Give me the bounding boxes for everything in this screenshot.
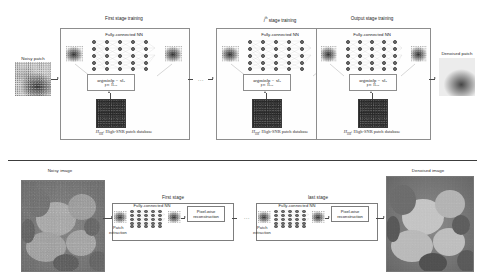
stage-3-nn-label: Fully-connected NN [353,32,391,37]
stage-3-database-patch [358,99,388,128]
bottom-stage-2-arrow-to-recon [325,218,329,219]
arrow-stage1-out [188,79,193,80]
stage-3-database-label: HHR: High-SNR patch database [344,129,401,136]
stage-2-formula-constraint: p ∈ HHR [261,83,273,87]
noisy-patch-image [15,62,51,96]
top-output-label: Denoised patch [441,51,472,56]
stage-3-title: Output stage training [351,16,394,21]
stage-2-database-patch [252,99,282,128]
stage-1-formula-objective: argmin‖p − x‖2 [97,78,125,83]
denoised-ct-image [386,176,474,272]
arrowhead-input-to-stage1 [57,77,59,79]
stage-3-db-arrowhead [370,91,372,93]
ct-noise-overlay [387,177,473,271]
stage-2-formula-objective: argmin‖p − x‖2 [253,78,281,83]
stage-1-formula-box: argmin‖p − x‖2 p ∈ HHR [87,74,135,91]
bottom-stage-1-extraction-label-2: extraction [109,231,127,236]
bottom-stage-2-recon-box: Pixel-wise reconstruction [331,206,369,222]
arrow-stage3-to-output [429,79,435,80]
arrow-image-to-stage1 [103,218,112,219]
bottom-output-label: Denoised image [412,168,444,173]
arrow-stage2-in [208,79,213,80]
stage-1-db-arrowhead [108,91,110,93]
stage-2-db-arrowhead [264,91,266,93]
bottom-stage-1-neural-network [129,209,167,227]
arrow-bottom-stage1-out [232,218,237,219]
noisy-ct-image [21,180,105,272]
bottom-input-label: Noisy image [48,168,73,173]
bottom-stage-1-recon-box: Pixel-wise reconstruction [187,206,225,222]
stage-2-title: ith stage training [264,16,297,23]
arrowhead-stage2-to-output-image [383,216,385,218]
stage-1-database-label: HHR: High-SNR patch database [96,129,153,136]
figure-root: Noisy patch First stage training Fully-c… [0,0,485,279]
denoised-patch-image [439,58,475,96]
bottom-stage-2-neural-network [273,209,311,227]
arrowhead-stage3-to-output [434,77,436,79]
bottom-stage-1-title: First stage [162,195,184,200]
bottom-stage-2-arrowhead-to-recon [328,216,330,218]
arrowhead-stage2-in [212,77,214,79]
bottom-stage-2-recon-label: Pixel-wise reconstruction [333,209,367,219]
bottom-stage-2-title: last stage [308,195,328,200]
stage-3-formula-constraint: p ∈ HHR [367,83,379,87]
bottom-stage-2-input-blob [258,211,271,223]
top-ellipsis-1: ... [198,76,204,82]
stage-1-title: First stage training [105,16,143,21]
ct-noise-overlay [22,181,104,271]
stage-1-formula-constraint: p ∈ HHR [105,83,117,87]
top-input-label: Noisy patch [21,56,45,61]
stage-3-formula-box: argmin‖p − x‖2 p ∈ HHR [349,74,397,91]
bottom-stage-1-output-blob [168,211,181,223]
stage-2-database-label: HHR: High-SNR patch database [252,129,309,136]
arrow-input-to-stage1 [51,79,58,80]
arrow-stage2-to-output-image [376,218,384,219]
bottom-stage-2-nn-label: Fully-connected NN [279,204,316,209]
stage-2-nn-label: Fully-connected NN [261,32,299,37]
bottom-stage-1-recon-label: Pixel-wise reconstruction [189,209,223,219]
bottom-stage-2-extraction-label-2: extraction [253,231,271,236]
panel-divider [8,160,477,161]
bottom-stage-1-arrowhead-to-recon [184,216,186,218]
stage-3-formula-objective: argmin‖p − x‖2 [359,78,387,83]
bottom-stage-1-arrow-to-recon [181,218,185,219]
stage-2-formula-box: argmin‖p − x‖2 p ∈ HHR [243,74,291,91]
stage-1-database-patch [96,99,126,128]
bottom-stage-1-nn-label: Fully-connected NN [134,204,171,209]
bottom-ellipsis: ... [244,214,250,220]
bottom-stage-1-input-blob [114,211,127,223]
stage-1-nn-label: Fully-connected NN [105,32,143,37]
bottom-stage-2-output-blob [312,211,325,223]
